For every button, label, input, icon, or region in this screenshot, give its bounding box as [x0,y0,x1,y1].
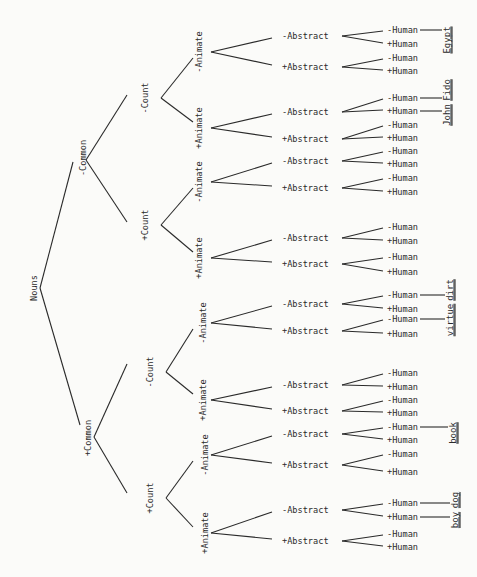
node-abstract: +Abstract [282,406,329,416]
edge-abstract-human [342,67,383,70]
node-human: +Human [387,267,418,277]
feature-tree-diagram: Nouns-Common+Common-Count+Count-Count+Co… [0,0,477,577]
edge-animate-abstract [211,52,272,65]
node-abstract: +Abstract [282,62,329,72]
node-human: +Human [387,106,418,116]
node-human: -Human [387,173,418,183]
root-node-nouns: Nouns [29,275,39,301]
edge-abstract-human [342,331,383,333]
node-human: +Human [387,236,418,246]
node-human: -Human [387,290,418,300]
node-human: -Human [387,422,418,432]
edge-abstract-human [342,179,383,188]
node-human: +Human [387,39,418,49]
edge-animate-abstract [211,128,272,137]
edge-abstract-human [342,401,383,411]
edge-abstract-human [342,535,383,541]
edge-count-animate [161,98,193,122]
example-word-john: John [442,104,452,126]
node-human: -Human [387,368,418,378]
edge-animate-abstract [211,436,272,455]
edge-animate-abstract [211,306,272,323]
node-human: +Human [387,408,418,418]
edge-animate-abstract [211,182,272,186]
example-word-book: book [448,422,458,444]
edge-abstract-human [342,36,383,43]
node-abstract: +Abstract [282,460,329,470]
node-common: -Common [78,140,88,176]
node-human: +Human [387,187,418,197]
node-common: +Common [83,420,93,456]
example-word-fido: Fido [442,79,452,101]
edge-abstract-human [342,296,383,304]
edge-animate-abstract [211,258,272,262]
node-abstract: -Abstract [282,299,329,309]
node-abstract: -Abstract [282,107,329,117]
edge-count-animate [166,461,193,498]
node-human: +Human [387,512,418,522]
edge-abstract-human [342,59,383,67]
node-human: -Human [387,449,418,459]
edge-common-count [94,437,127,493]
edge-abstract-human [342,541,383,546]
node-human: +Human [387,159,418,169]
node-abstract: -Abstract [282,505,329,515]
node-abstract: -Abstract [282,429,329,439]
edge-common-count [86,95,127,160]
node-human: -Human [387,120,418,130]
edge-animate-abstract [211,455,272,463]
edge-abstract-human [342,385,383,386]
example-words: EgyptFidoJohndirtvirtuebookdogboy [442,26,460,528]
node-human: +Human [387,542,418,552]
node-abstract: -Abstract [282,380,329,390]
example-word-boy: boy [450,511,460,528]
node-abstract: -Abstract [282,31,329,41]
node-abstract: -Abstract [282,156,329,166]
node-abstract: -Abstract [282,233,329,243]
edge-animate-abstract [211,240,272,258]
edge-abstract-human [342,188,383,191]
node-human: -Human [387,252,418,262]
node-count: +Count [145,482,155,513]
node-human: -Human [387,53,418,63]
node-animate: -Animate [198,302,208,343]
edge-animate-abstract [211,114,272,128]
node-count: +Count [140,209,150,240]
edge-abstract-human [342,238,383,240]
edge-count-animate [161,188,193,225]
edge-animate-abstract [211,323,272,329]
edge-abstract-human [342,258,383,264]
node-human: -Human [387,25,418,35]
edge-common-count [86,160,127,222]
example-word-virtue: virtue [445,304,455,337]
edge-count-animate [166,372,193,394]
edge-animate-abstract [211,38,272,52]
edge-count-animate [161,225,193,252]
node-abstract: +Abstract [282,134,329,144]
node-animate: -Animate [194,31,204,72]
edge-animate-abstract [211,400,272,409]
edge-common-count [94,364,127,437]
edge-abstract-human [342,428,383,434]
node-human: +Human [387,133,418,143]
tree-labels: Nouns-Common+Common-Count+Count-Count+Co… [29,25,419,554]
edge-animate-abstract [211,163,272,182]
node-human: +Human [387,304,418,314]
edge-abstract-human [342,264,383,271]
node-count: -Count [145,356,155,387]
edge-abstract-human [342,228,383,238]
edge-root-common [40,288,80,425]
edge-root-common [40,162,73,288]
node-animate: +Animate [194,237,204,278]
node-human: +Human [387,435,418,445]
node-human: -Human [387,498,418,508]
node-human: +Human [387,382,418,392]
node-animate: +Animate [198,379,208,420]
edge-count-animate [161,58,193,98]
edge-abstract-human [342,374,383,385]
edge-abstract-human [342,455,383,465]
edge-abstract-human [342,320,383,331]
edge-abstract-human [342,31,383,36]
node-animate: -Animate [200,434,210,475]
node-animate: -Animate [194,161,204,202]
